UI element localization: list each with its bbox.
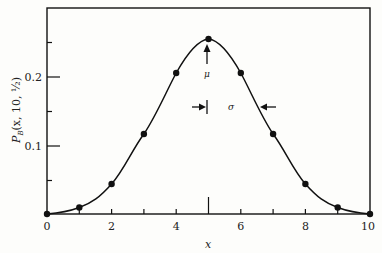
y-tick-label-0-1: 0.1: [25, 140, 43, 153]
arrow-left-icon: [260, 104, 267, 111]
y-axis-label: PB(x, 10, ½): [10, 77, 25, 144]
arrow-right-icon: [199, 104, 206, 111]
y-ticks: [47, 43, 60, 181]
fit-curve: [47, 39, 370, 214]
x-tick-label-2: 2: [108, 220, 115, 233]
y-tick-label-0-2: 0.2: [25, 71, 43, 84]
data-points: [44, 36, 373, 217]
x-tick-label-4: 4: [173, 220, 180, 233]
x-ticks: [79, 197, 337, 214]
sigma-annotation: σ: [192, 100, 276, 114]
y-axis-label-args: (x, 10, ½): [10, 77, 23, 130]
mu-label: μ: [204, 69, 210, 79]
x-tick-label-10: 10: [361, 220, 375, 233]
x-tick-label-8: 8: [302, 220, 309, 233]
mu-annotation: μ: [204, 44, 211, 79]
binomial-chart: 0 2 4 6 8 10 0.1 0.2 x PB(x, 10, ½) μ: [0, 0, 382, 253]
sigma-label: σ: [228, 102, 235, 112]
x-axis-label: x: [205, 238, 212, 251]
x-tick-label-0: 0: [44, 220, 51, 233]
svg-text:PB(x, 10, ½): PB(x, 10, ½): [10, 77, 25, 144]
arrow-up-icon: [204, 44, 211, 52]
x-tick-label-6: 6: [237, 220, 244, 233]
